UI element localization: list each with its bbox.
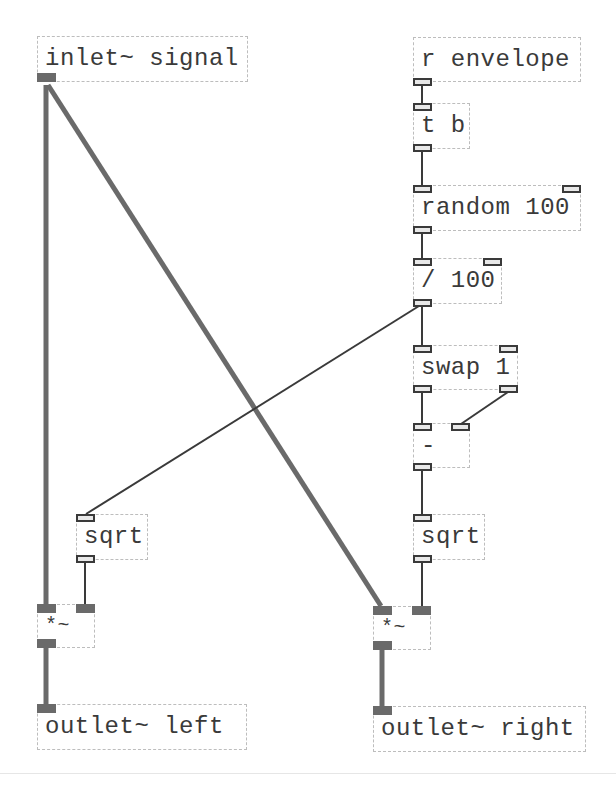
patch-cords bbox=[0, 0, 616, 787]
outlet-port[interactable] bbox=[37, 639, 56, 648]
object-sqrt-right[interactable]: sqrt bbox=[413, 514, 485, 560]
outlet-port[interactable] bbox=[413, 463, 432, 471]
object-multiply-signal-right[interactable]: *~ bbox=[373, 606, 431, 650]
outlet-port-right[interactable] bbox=[499, 385, 518, 393]
outlet-port[interactable] bbox=[413, 226, 432, 234]
object-label: random 100 bbox=[421, 194, 570, 221]
inlet-port-left[interactable] bbox=[413, 423, 432, 431]
object-label: r envelope bbox=[421, 46, 570, 73]
inlet-port-left[interactable] bbox=[413, 185, 432, 193]
object-t-b[interactable]: t b bbox=[413, 103, 470, 149]
outlet-port[interactable] bbox=[413, 299, 432, 307]
canvas-bottom-edge bbox=[0, 773, 616, 774]
object-multiply-signal-left[interactable]: *~ bbox=[37, 604, 95, 648]
object-random-100[interactable]: random 100 bbox=[413, 185, 581, 231]
outlet-port-left[interactable] bbox=[413, 385, 432, 393]
outlet-port[interactable] bbox=[76, 555, 95, 563]
object-r-envelope[interactable]: r envelope bbox=[413, 37, 581, 82]
object-label: swap 1 bbox=[421, 354, 510, 381]
inlet-port-left[interactable] bbox=[373, 606, 392, 615]
object-label: t b bbox=[421, 112, 466, 139]
outlet-port[interactable] bbox=[413, 144, 432, 152]
object-minus[interactable]: - bbox=[413, 423, 470, 468]
inlet-port-right[interactable] bbox=[499, 345, 518, 353]
object-label: / 100 bbox=[421, 267, 496, 294]
object-swap-1[interactable]: swap 1 bbox=[413, 345, 518, 390]
cord-div-to-sqrt-left bbox=[86, 306, 419, 514]
object-inlet-signal[interactable]: inlet~ signal bbox=[37, 36, 248, 82]
outlet-port[interactable] bbox=[373, 641, 392, 650]
object-outlet-left[interactable]: outlet~ left bbox=[37, 704, 247, 750]
inlet-port-left[interactable] bbox=[413, 345, 432, 353]
outlet-port[interactable] bbox=[37, 73, 56, 82]
inlet-port-left[interactable] bbox=[37, 604, 56, 613]
inlet-port-right[interactable] bbox=[451, 423, 470, 431]
inlet-port-right[interactable] bbox=[76, 604, 95, 613]
object-label: *~ bbox=[381, 616, 406, 639]
object-sqrt-left[interactable]: sqrt bbox=[76, 514, 148, 560]
outlet-port[interactable] bbox=[413, 555, 432, 563]
object-label: - bbox=[421, 432, 436, 459]
object-label: sqrt bbox=[421, 523, 481, 550]
inlet-port-right[interactable] bbox=[412, 606, 431, 615]
inlet-port-left[interactable] bbox=[413, 258, 432, 266]
object-label: sqrt bbox=[84, 523, 144, 550]
object-label: inlet~ signal bbox=[45, 45, 239, 72]
inlet-port-right[interactable] bbox=[483, 258, 502, 266]
inlet-port[interactable] bbox=[413, 103, 432, 111]
patch-canvas[interactable]: inlet~ signal r envelope t b random 100 … bbox=[0, 0, 616, 787]
object-divide-100[interactable]: / 100 bbox=[413, 258, 502, 304]
object-label: outlet~ left bbox=[45, 713, 224, 740]
object-label: outlet~ right bbox=[381, 715, 575, 742]
inlet-port[interactable] bbox=[76, 514, 95, 522]
inlet-port[interactable] bbox=[373, 706, 392, 715]
inlet-port[interactable] bbox=[413, 514, 432, 522]
object-outlet-right[interactable]: outlet~ right bbox=[373, 706, 586, 752]
cord-swap-right-to-minus-right bbox=[461, 392, 508, 424]
inlet-port-right[interactable] bbox=[562, 185, 581, 193]
inlet-port[interactable] bbox=[37, 704, 56, 713]
outlet-port[interactable] bbox=[413, 78, 432, 86]
object-label: *~ bbox=[45, 614, 70, 637]
